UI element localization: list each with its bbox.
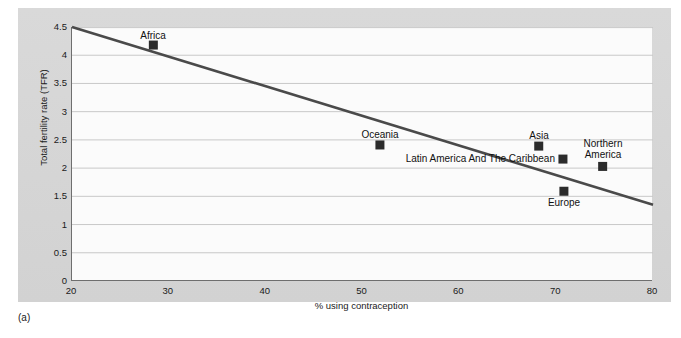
y-tick-4-5: 4.5: [33, 22, 67, 32]
point-label-northern-america-line2: America: [585, 149, 622, 160]
x-tick-50: 50: [342, 285, 382, 296]
y-axis-title: Total fertility rate (TFR): [38, 33, 49, 203]
marker-africa: [149, 41, 158, 50]
x-axis-tick-labels: 20 30 40 50 60 70 80: [71, 285, 652, 299]
figure-panel: 0 0.5 1 1.5 2 2.5 3 3.5 4 4.5 Total fert…: [18, 8, 671, 302]
marker-asia: [534, 142, 543, 151]
point-label-asia: Asia: [529, 130, 548, 141]
point-label-oceania: Oceania: [361, 129, 398, 140]
trendline: [72, 27, 653, 205]
y-tick-1: 1: [33, 220, 67, 230]
marker-europe: [559, 187, 568, 196]
y-tick-0-5: 0.5: [33, 248, 67, 258]
x-tick-70: 70: [535, 285, 575, 296]
data-markers: [149, 41, 607, 196]
marker-northern-america: [598, 162, 607, 171]
x-tick-40: 40: [245, 285, 285, 296]
x-axis-title: % using contraception: [71, 300, 652, 311]
x-tick-60: 60: [438, 285, 478, 296]
gridlines: [72, 28, 653, 253]
figure-caption: (a): [18, 312, 30, 323]
point-label-latin-america: Latin America And The Caribbean: [406, 153, 555, 164]
point-label-europe: Europe: [548, 197, 580, 208]
marker-oceania: [375, 140, 384, 149]
plot-canvas: [72, 27, 653, 281]
point-label-northern-america-line1: Northern: [584, 138, 623, 149]
x-tick-20: 20: [51, 285, 91, 296]
plot-area: Africa Oceania Asia Latin America And Th…: [71, 27, 652, 281]
point-label-africa: Africa: [140, 30, 166, 41]
x-tick-30: 30: [148, 285, 188, 296]
x-tick-80: 80: [632, 285, 672, 296]
marker-latin-america: [558, 155, 567, 164]
